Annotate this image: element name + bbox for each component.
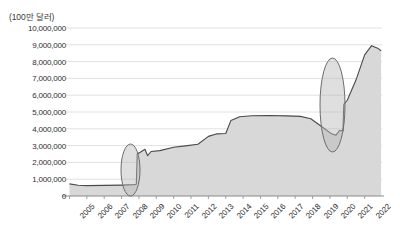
x-axis-tick-label: 2019 [322,202,340,220]
x-axis-tick-label: 2021 [356,202,374,220]
x-axis-tick-labels: 2005200620072008200920102011201220132014… [0,0,400,231]
x-axis-tick-label: 2015 [252,202,270,220]
x-axis-tick-label: 2007 [113,202,131,220]
x-axis-tick-label: 2018 [304,202,322,220]
chart-container: (100만 달러) 10,000,0009,000,0008,000,0007,… [0,0,400,231]
x-axis-tick-label: 2016 [269,202,287,220]
x-axis-tick-label: 2005 [78,202,96,220]
x-axis-tick-label: 2012 [200,202,218,220]
x-axis-tick-label: 2017 [287,202,305,220]
x-axis-tick-label: 2008 [131,202,149,220]
x-axis-tick-label: 2014 [235,202,253,220]
x-axis-tick-label: 2009 [148,202,166,220]
x-axis-tick-label: 2011 [182,202,200,220]
x-axis-tick-label: 2010 [165,202,183,220]
x-axis-tick-label: 2013 [217,202,235,220]
x-axis-tick-label: 2006 [96,202,114,220]
x-axis-tick-label: 2020 [339,202,357,220]
x-axis-tick-label: 2022 [374,202,392,220]
